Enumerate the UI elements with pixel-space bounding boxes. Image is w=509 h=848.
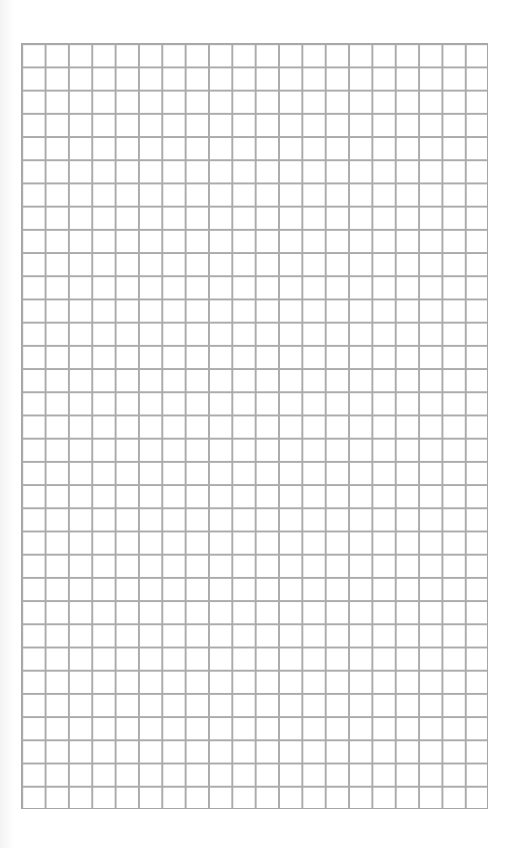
graph-paper-grid [21,43,488,809]
page-edge-shadow [0,0,14,848]
